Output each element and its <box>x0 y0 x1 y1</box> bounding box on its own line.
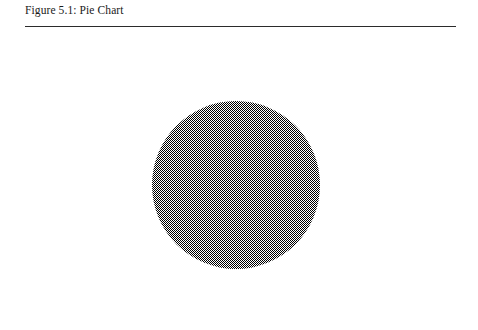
figure-plot-area <box>0 30 478 330</box>
figure-caption: Figure 5.1: Pie Chart <box>25 3 124 18</box>
pie-slice-total <box>152 101 320 269</box>
pie-chart <box>152 101 320 269</box>
figure-page: Figure 5.1: Pie Chart <box>0 0 478 330</box>
caption-rule-divider <box>25 26 456 27</box>
